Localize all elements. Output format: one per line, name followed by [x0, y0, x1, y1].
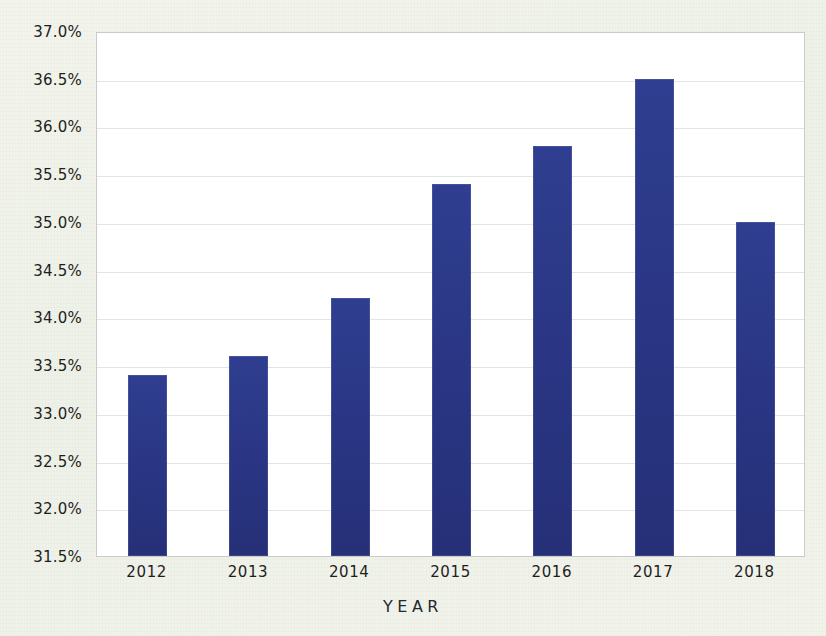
- x-tick-label: 2012: [126, 563, 167, 581]
- y-axis: 37.0%36.5%36.0%35.5%35.0%34.5%34.0%33.5%…: [0, 0, 90, 636]
- x-axis: 2012201320142015201620172018: [96, 563, 805, 589]
- y-tick-label: 36.5%: [33, 71, 82, 89]
- x-axis-title: YEAR: [0, 597, 826, 616]
- x-tick-label: 2017: [633, 563, 674, 581]
- bar-chart-figure: 37.0%36.5%36.0%35.5%35.0%34.5%34.0%33.5%…: [0, 0, 826, 636]
- y-tick-label: 35.5%: [33, 166, 82, 184]
- y-tick-label: 31.5%: [33, 548, 82, 566]
- bar: [331, 298, 370, 556]
- y-tick-label: 34.5%: [33, 262, 82, 280]
- x-tick-label: 2013: [228, 563, 269, 581]
- y-tick-label: 32.5%: [33, 453, 82, 471]
- bars-layer: [97, 33, 804, 556]
- y-tick-label: 33.5%: [33, 357, 82, 375]
- bar: [128, 375, 167, 556]
- x-tick-label: 2014: [329, 563, 370, 581]
- y-tick-label: 35.0%: [33, 214, 82, 232]
- bar: [229, 356, 268, 556]
- x-tick-label: 2018: [734, 563, 775, 581]
- y-tick-label: 33.0%: [33, 405, 82, 423]
- y-tick-label: 34.0%: [33, 309, 82, 327]
- y-tick-label: 37.0%: [33, 23, 82, 41]
- plot-area: [96, 32, 805, 557]
- bar: [533, 146, 572, 556]
- y-tick-label: 36.0%: [33, 118, 82, 136]
- x-tick-label: 2016: [531, 563, 572, 581]
- bar: [736, 222, 775, 556]
- bar: [635, 79, 674, 556]
- bar: [432, 184, 471, 556]
- x-tick-label: 2015: [430, 563, 471, 581]
- y-tick-label: 32.0%: [33, 500, 82, 518]
